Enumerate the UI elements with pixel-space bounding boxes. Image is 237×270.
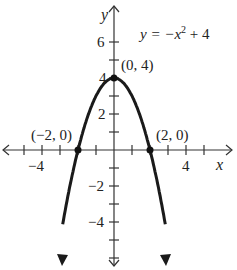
point-left-root <box>75 147 82 154</box>
left-root-label: (−2, 0) <box>31 127 72 144</box>
y-tick-label-6: 6 <box>97 34 105 50</box>
parabola-graph: y x y = −x2 + 4 6 4 2 −2 −4 −4 4 (0, 4) … <box>0 0 237 270</box>
x-tick-label-4: 4 <box>182 158 190 174</box>
x-tick-label-neg4: −4 <box>28 158 44 174</box>
y-tick-label-4: 4 <box>99 70 107 86</box>
y-tick-label-neg4: −4 <box>88 214 104 230</box>
point-vertex <box>111 75 118 82</box>
x-axis-label: x <box>215 156 223 173</box>
vertex-label: (0, 4) <box>121 57 154 74</box>
curve-arrow-right <box>160 254 171 266</box>
point-right-root <box>147 147 154 154</box>
right-root-label: (2, 0) <box>156 127 189 144</box>
x-axis <box>3 145 232 155</box>
y-tick-label-neg2: −2 <box>88 178 104 194</box>
y-axis <box>109 6 119 266</box>
y-axis-label: y <box>99 6 109 24</box>
curve-arrow-left <box>57 254 68 266</box>
equation-label: y = −x2 + 4 <box>138 24 210 42</box>
y-tick-label-2: 2 <box>98 106 106 122</box>
